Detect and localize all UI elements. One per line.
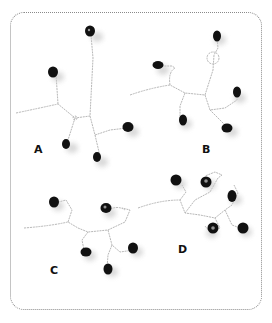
bead (123, 122, 134, 132)
wire-bead-illustration (0, 0, 272, 323)
structure-a (16, 35, 127, 158)
bead (48, 67, 58, 78)
bead (222, 124, 233, 133)
bead (153, 61, 164, 69)
bead (49, 197, 59, 208)
bead (233, 87, 241, 98)
panel-label-b: B (202, 143, 210, 156)
structure-d (138, 172, 243, 232)
bead (228, 190, 237, 202)
bead (104, 264, 113, 275)
bead (238, 223, 249, 234)
bead (93, 152, 101, 162)
panel-label-a: A (34, 143, 43, 156)
panel-label-c: C (50, 264, 58, 277)
bead (179, 115, 187, 126)
bead (81, 248, 92, 257)
structure-b (130, 38, 237, 128)
bead (128, 243, 138, 254)
bead (213, 31, 221, 42)
panel-label-d: D (178, 243, 187, 256)
bead (171, 175, 182, 186)
structure-c (24, 200, 134, 268)
bead (85, 26, 95, 37)
bead (62, 139, 70, 149)
